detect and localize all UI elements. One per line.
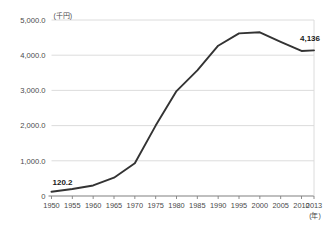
y-axis-unit-label: (千円) xyxy=(54,11,73,20)
x-tick-label: 1960 xyxy=(85,201,101,210)
x-tick-label: 2005 xyxy=(272,201,288,210)
x-tick-label: 2013 xyxy=(306,201,322,210)
chart-canvas: 01,000.02,000.03,000.04,000.05,000.01950… xyxy=(0,0,329,232)
x-tick-label: 1965 xyxy=(106,201,122,210)
data-line-series xyxy=(52,32,315,191)
y-tick-label: 2,000.0 xyxy=(20,121,45,130)
y-tick-label: 3,000.0 xyxy=(20,86,45,95)
y-tick-label: 0 xyxy=(41,192,45,201)
x-tick-label: 1995 xyxy=(231,201,247,210)
x-tick-label: 1985 xyxy=(189,201,205,210)
first-point-label: 120.2 xyxy=(53,178,74,187)
x-tick-label: 1950 xyxy=(43,201,59,210)
x-tick-label: 1970 xyxy=(127,201,143,210)
y-tick-label: 5,000.0 xyxy=(20,16,45,25)
last-point-label: 4,136 xyxy=(300,34,321,43)
x-tick-label: 1990 xyxy=(210,201,226,210)
x-tick-label: 1955 xyxy=(64,201,80,210)
x-axis-unit-label: (年) xyxy=(309,211,321,220)
y-tick-label: 4,000.0 xyxy=(20,51,45,60)
x-tick-label: 1980 xyxy=(168,201,184,210)
x-tick-label: 2000 xyxy=(252,201,268,210)
x-tick-label: 1975 xyxy=(147,201,163,210)
y-tick-label: 1,000.0 xyxy=(20,157,45,166)
line-chart: 01,000.02,000.03,000.04,000.05,000.01950… xyxy=(0,0,329,232)
